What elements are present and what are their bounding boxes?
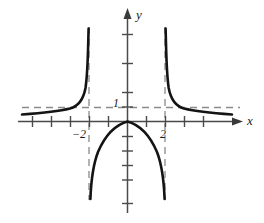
x-axis-arrow: [232, 118, 243, 126]
x-axis-label: x: [247, 114, 253, 127]
tick-label-1: 1: [113, 97, 119, 109]
tick-label-2: 2: [160, 128, 166, 140]
curve-left-branch: [22, 29, 89, 115]
graph-canvas: [0, 0, 264, 223]
graph-figure: y x −2 2 1: [0, 0, 264, 223]
tick-label-minus-2: −2: [72, 128, 86, 140]
curve-right-branch: [166, 29, 232, 115]
y-axis-label: y: [136, 8, 142, 21]
y-axis-arrow: [124, 8, 132, 19]
